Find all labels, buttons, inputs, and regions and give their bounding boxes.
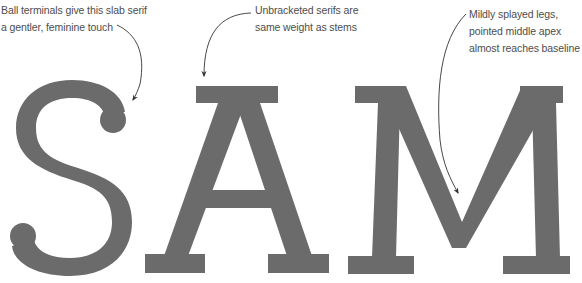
arrow-to-s-terminal (117, 25, 142, 100)
annotation-line: Mildly splayed legs, (469, 6, 580, 23)
a-bottom-right-serif (268, 254, 329, 273)
letter-a (145, 86, 329, 273)
m-bottom-right-serif (503, 256, 570, 274)
m-bottom-left-serif (348, 256, 414, 274)
arrow-to-m-apex (439, 14, 466, 193)
s-ball-terminal-bottom (10, 223, 36, 249)
a-top-serif (196, 86, 278, 103)
letter-s (10, 80, 132, 276)
m-right-stem (532, 103, 560, 258)
a-right-leg (236, 103, 312, 256)
annotation-line: pointed middle apex (469, 23, 580, 40)
a-crossbar (200, 190, 280, 208)
annotation-line: a gentler, feminine touch (1, 19, 147, 36)
annotation-line: almost reaches baseline (469, 40, 580, 57)
annotation-line: Unbracketed serifs are (255, 2, 358, 19)
s-ball-terminal-top (100, 107, 126, 133)
annotation-ball-terminals: Ball terminals give this slab serif a ge… (1, 2, 147, 36)
letter-m (348, 86, 570, 274)
m-left-stem (372, 103, 400, 258)
a-left-leg (164, 103, 245, 256)
annotation-line: same weight as stems (255, 19, 358, 36)
annotation-unbracketed-serifs: Unbracketed serifs are same weight as st… (255, 2, 358, 36)
annotation-splayed-legs: Mildly splayed legs, pointed middle apex… (469, 6, 580, 57)
annotation-line: Ball terminals give this slab serif (1, 2, 147, 19)
a-bottom-left-serif (145, 254, 205, 273)
m-middle-v (380, 86, 540, 248)
arrow-to-a-serif (204, 13, 251, 76)
